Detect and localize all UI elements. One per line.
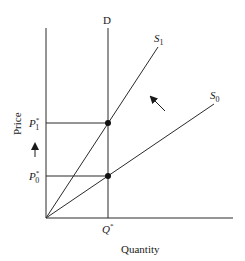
y-axis-label: Price — [11, 112, 23, 135]
x-axis-label: Quantity — [121, 243, 160, 255]
p0-label: P*0 — [28, 169, 40, 185]
q-star-label: Q* — [102, 222, 114, 235]
equilibrium-point-shifted — [105, 120, 111, 126]
s0-label: S0 — [210, 89, 220, 104]
s1-label: S1 — [154, 32, 164, 47]
supply-curve-s1 — [46, 47, 158, 218]
p1-label: P*1 — [28, 116, 40, 132]
diagram-svg: D S1 S0 P*1 P*0 Q* — [0, 0, 245, 261]
supply-shift-arrow-icon — [151, 97, 165, 111]
equilibrium-point-initial — [105, 173, 111, 179]
supply-demand-diagram: D S1 S0 P*1 P*0 Q* — [0, 0, 245, 261]
supply-curve-s0 — [46, 104, 214, 218]
demand-label: D — [103, 14, 111, 26]
